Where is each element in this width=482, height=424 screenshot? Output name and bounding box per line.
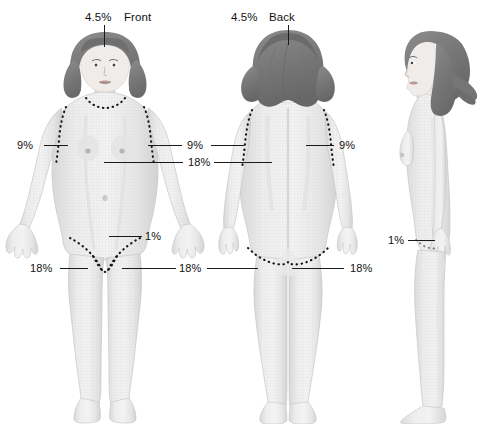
- label-genital-front-percent: 1%: [145, 230, 161, 242]
- side-figure-art: [382, 22, 482, 424]
- leader-genital-front: [109, 236, 142, 237]
- label-leg-front-left-percent: 18%: [30, 262, 52, 274]
- back-body-silhouette: [219, 82, 358, 424]
- label-leg-shared-middle-percent: 18%: [179, 262, 201, 274]
- leader-arm-back-right: [306, 145, 334, 146]
- leader-trunk-front: [104, 162, 183, 163]
- leader-arm-back-left: [211, 145, 244, 146]
- side-body-silhouette: [400, 82, 451, 424]
- leader-genital-side: [408, 240, 435, 241]
- label-head-front-view: Front: [124, 11, 151, 23]
- leader-leg-back-left: [207, 268, 258, 269]
- rule-of-nines-diagram: 4.5% Front 4.5% Back 9% 9% 9% 18% 1% 1% …: [0, 0, 482, 424]
- label-genital-side-percent: 1%: [388, 234, 404, 246]
- label-arm-shared-middle-percent: 9%: [187, 139, 203, 151]
- label-arm-back-right-percent: 9%: [339, 139, 355, 151]
- leader-trunk-back: [214, 162, 272, 163]
- label-leg-back-right-percent: 18%: [350, 262, 372, 274]
- label-head-front-percent: 4.5%: [85, 11, 112, 23]
- leader-arm-front-right: [148, 145, 182, 146]
- leader-leg-back-right: [292, 268, 344, 269]
- label-trunk-percent: 18%: [188, 156, 210, 168]
- front-body-silhouette: [6, 82, 204, 423]
- leader-arm-front-left: [44, 145, 68, 146]
- label-arm-front-left-percent: 9%: [17, 139, 33, 151]
- label-head-back-view: Back: [269, 11, 295, 23]
- front-figure-art: [0, 20, 210, 424]
- leader-head-front: [104, 25, 105, 47]
- back-figure: [198, 20, 378, 424]
- leader-leg-front-left: [60, 268, 88, 269]
- leader-leg-front-right: [122, 268, 176, 269]
- front-figure: [0, 20, 210, 424]
- label-head-back-percent: 4.5%: [231, 11, 258, 23]
- side-figure: [382, 22, 482, 424]
- leader-head-back: [288, 25, 289, 45]
- back-figure-art: [198, 20, 378, 424]
